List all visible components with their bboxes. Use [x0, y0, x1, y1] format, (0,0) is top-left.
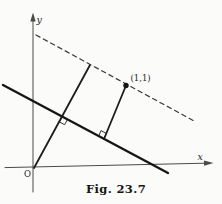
y-axis-label: y: [36, 14, 43, 25]
given-line: [3, 85, 168, 173]
figure-caption: Fig. 23.7: [86, 182, 146, 196]
perpendicular-from-point: [104, 86, 126, 140]
x-axis-label: x: [198, 151, 204, 162]
y-axis-arrowhead: [30, 13, 35, 22]
textbook-figure: yxO(1,1)Fig. 23.7: [0, 0, 222, 204]
point-label: (1,1): [131, 73, 151, 83]
origin-label: O: [24, 169, 31, 179]
x-axis-arrowhead: [204, 161, 214, 166]
point-1-1: [123, 83, 128, 88]
coordinate-plane-diagram: yxO(1,1)Fig. 23.7: [0, 0, 222, 204]
